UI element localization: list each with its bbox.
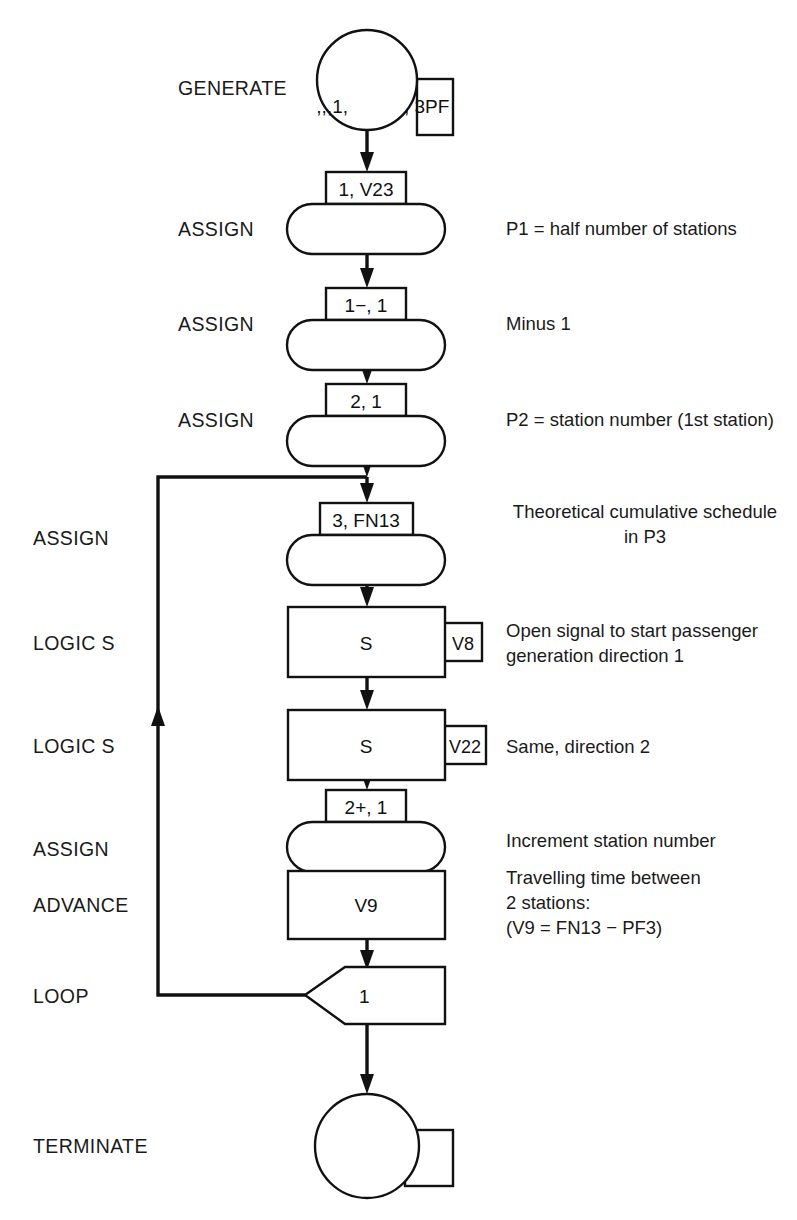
note-advance-line3: (V9 = FN13 − PF3) (506, 917, 662, 938)
op-label-assign5: ASSIGN (33, 838, 109, 860)
generate-circle-operand: ,,,1, (316, 96, 348, 117)
logics2-side-operand: V22 (449, 737, 481, 757)
block-advance[interactable]: V9 (288, 871, 445, 939)
assign2-operand: 1−, 1 (345, 295, 388, 316)
block-assign5[interactable]: 2+, 1 (287, 790, 445, 872)
block-terminate[interactable] (315, 1094, 453, 1198)
note-assign3: P2 = station number (1st station) (506, 409, 774, 430)
note-advance-line2: 2 stations: (506, 892, 590, 913)
gpss-flowchart: ,,,1, , 3PF 1, V23 1−, 1 2, 1 3, FN13 (0, 0, 797, 1220)
block-generate[interactable]: ,,,1, , 3PF (316, 30, 453, 135)
assign3-operand: 2, 1 (350, 391, 382, 412)
block-logics1[interactable]: S V8 (288, 607, 482, 677)
block-logics2[interactable]: S V22 (288, 710, 486, 780)
connector-loop-to-terminate (360, 1024, 374, 1094)
block-assign1[interactable]: 1, V23 (287, 172, 445, 254)
op-label-generate: GENERATE (178, 77, 287, 99)
op-label-assign3: ASSIGN (178, 409, 254, 431)
block-assign3[interactable]: 2, 1 (287, 384, 445, 466)
note-logics1-line2: generation direction 1 (506, 645, 684, 666)
block-assign2[interactable]: 1−, 1 (287, 288, 445, 370)
note-logics1-line1: Open signal to start passenger (506, 620, 758, 641)
connector-advance-to-loop (360, 938, 374, 970)
note-assign2: Minus 1 (506, 313, 571, 334)
logics1-side-operand: V8 (452, 634, 474, 654)
note-logics1: Open signal to start passenger generatio… (506, 620, 758, 666)
assign1-operand: 1, V23 (339, 179, 394, 200)
note-assign5: Increment station number (506, 830, 716, 851)
op-label-assign2: ASSIGN (178, 313, 254, 335)
connector-logics1-to-logics2 (360, 676, 374, 710)
generate-box-operand: , 3PF (404, 96, 449, 117)
op-label-assign4: ASSIGN (33, 527, 109, 549)
note-advance: Travelling time between 2 stations: (V9 … (506, 867, 701, 938)
loop-operand: 1 (359, 986, 370, 1007)
logics2-operand: S (360, 736, 373, 757)
op-label-advance: ADVANCE (33, 894, 129, 916)
connector-junction-to-assign4 (360, 477, 374, 503)
block-loop[interactable]: 1 (305, 967, 445, 1024)
op-label-terminate: TERMINATE (33, 1135, 148, 1157)
op-label-logics1: LOGIC S (33, 632, 115, 654)
logics1-operand: S (360, 633, 373, 654)
assign4-operand: 3, FN13 (332, 510, 400, 531)
op-label-logics2: LOGIC S (33, 735, 115, 757)
advance-operand: V9 (354, 895, 377, 916)
note-advance-line1: Travelling time between (506, 867, 701, 888)
connector-assign1-to-assign2 (360, 253, 374, 288)
flowchart-canvas: ,,,1, , 3PF 1, V23 1−, 1 2, 1 3, FN13 (0, 0, 797, 1220)
note-assign1: P1 = half number of stations (506, 218, 737, 239)
note-assign4: Theoretical cumulative schedule in P3 (513, 501, 777, 547)
note-logics2: Same, direction 2 (506, 736, 650, 757)
block-assign4[interactable]: 3, FN13 (287, 503, 445, 585)
op-label-assign1: ASSIGN (178, 218, 254, 240)
op-label-loop: LOOP (33, 985, 89, 1007)
assign5-operand: 2+, 1 (345, 797, 388, 818)
note-assign4-line2: in P3 (624, 526, 666, 547)
connector-generate-to-assign1 (360, 130, 374, 172)
note-assign4-line1: Theoretical cumulative schedule (513, 501, 777, 522)
